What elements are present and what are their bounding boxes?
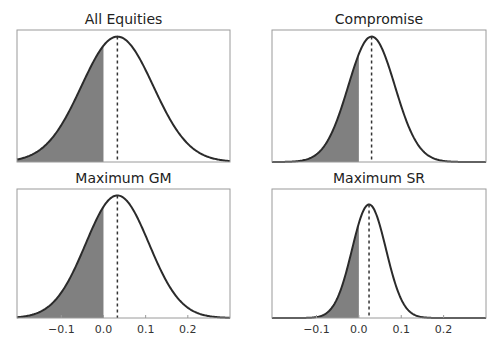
x-tick-label: 0.2 [435,323,453,336]
panel-maximum-sr: Maximum SR −0.10.00.10.2 [0,0,501,346]
plot-area: −0.10.00.10.2 [0,0,501,346]
density-curve [272,204,486,318]
x-tick-label: 0.1 [392,323,410,336]
x-tick-label: −0.1 [303,323,330,336]
axes-frame [272,189,486,318]
x-tick-label: 0.0 [350,323,368,336]
